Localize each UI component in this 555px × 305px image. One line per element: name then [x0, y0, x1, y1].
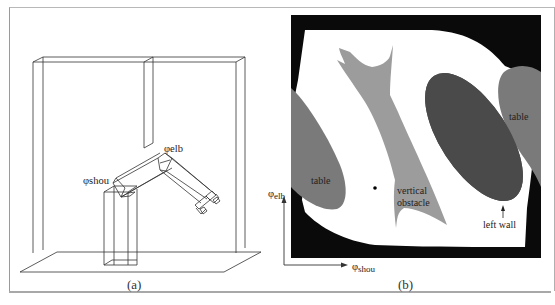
- table-label-left: table: [311, 175, 331, 186]
- panel-b-caption: (b): [398, 277, 413, 293]
- current-configuration-point: [373, 186, 377, 190]
- left-wall-label: left wall: [483, 219, 516, 230]
- table-label-right: table: [509, 111, 529, 122]
- vertical-obstacle-label-line1: vertical: [397, 185, 427, 196]
- panel-a-caption: (a): [127, 277, 141, 293]
- y-axis-label: φelb: [268, 188, 286, 201]
- x-axis-label: φshou: [352, 261, 376, 274]
- vertical-obstacle-label-line2: obstacle: [397, 197, 430, 208]
